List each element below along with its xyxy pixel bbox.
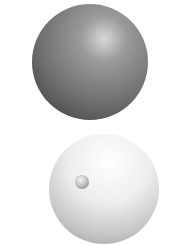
nuclear-model-diagram: [0, 123, 170, 246]
nuclear-model-figure: [0, 123, 170, 246]
plum-pudding-model-figure: [0, 0, 170, 123]
atom-sphere: [49, 134, 159, 244]
nucleus: [75, 175, 89, 189]
plum-pudding-diagram: [0, 0, 170, 123]
atom-sphere: [32, 4, 148, 120]
